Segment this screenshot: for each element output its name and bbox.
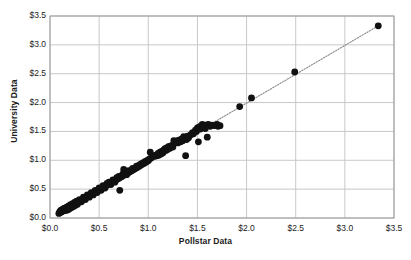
x-tick-label: $3.0 [325, 223, 365, 233]
data-point [248, 95, 255, 102]
x-tick-label: $1.0 [128, 223, 168, 233]
x-axis-title: Pollstar Data [0, 236, 411, 246]
y-tick-label: $3.0 [2, 39, 46, 49]
x-tick-label: $2.0 [227, 223, 267, 233]
data-point [217, 122, 224, 129]
y-tick-label: $0.5 [2, 183, 46, 193]
data-point [182, 152, 189, 159]
x-tick-label: $3.5 [374, 223, 411, 233]
data-point [291, 69, 298, 76]
y-tick-label: $0.0 [2, 212, 46, 222]
y-tick-label: $3.5 [2, 10, 46, 20]
data-point [204, 134, 211, 141]
x-tick-label: $0.0 [30, 223, 70, 233]
data-point [236, 103, 243, 110]
data-point [195, 138, 202, 145]
data-point [116, 187, 123, 194]
x-tick-label: $0.5 [79, 223, 119, 233]
x-tick-label: $2.5 [276, 223, 316, 233]
scatter-chart: $0.0$0.5$1.0$1.5$2.0$2.5$3.0$3.5 $0.0$0.… [0, 0, 411, 260]
plot-canvas [0, 0, 411, 260]
x-tick-label: $1.5 [177, 223, 217, 233]
y-axis-title: University Data [9, 61, 19, 161]
data-point [375, 22, 382, 29]
